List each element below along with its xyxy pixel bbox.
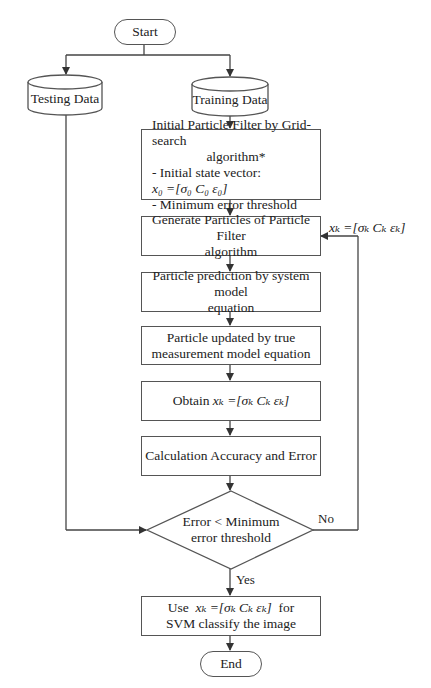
feedback-state-label: xₖ =[σₖ Cₖ εₖ] <box>329 219 405 236</box>
start-terminal: Start <box>114 19 176 45</box>
no-label: No <box>318 511 334 527</box>
obtained-state-vector: xₖ =[σₖ Cₖ εₖ] <box>213 393 289 409</box>
start-label: Start <box>132 24 158 40</box>
yes-label: Yes <box>236 572 255 588</box>
init-line4: - Minimum error threshold <box>152 197 297 213</box>
particle-prediction-box: Particle prediction by system model equa… <box>141 272 321 312</box>
svm-line1: Use xₖ =[σₖ Cₖ εₖ] for <box>168 600 295 616</box>
generate-particles-box: Generate Particles of Particle Filter al… <box>141 216 321 256</box>
init-particle-filter-box: Initial Particle Filter by Grid-search a… <box>141 129 321 200</box>
end-terminal: End <box>200 651 262 677</box>
decision-label: Error < Minimum error threshold <box>170 514 292 546</box>
testing-data-label: Testing Data <box>28 91 102 107</box>
end-label: End <box>220 656 242 672</box>
calculation-accuracy-box: Calculation Accuracy and Error <box>141 436 321 476</box>
initial-state-vector: x₀ =[σ₀ C₀ ε₀] <box>152 181 228 196</box>
obtain-state-box: Obtain xₖ =[σₖ Cₖ εₖ] <box>141 381 321 421</box>
particle-update-box: Particle updated by true measurement mod… <box>141 326 321 365</box>
svm-classify-box: Use xₖ =[σₖ Cₖ εₖ] for SVM classify the … <box>141 596 321 636</box>
init-line3: - Initial state vector: x₀ =[σ₀ C₀ ε₀] <box>152 165 320 197</box>
training-data-label: Training Data <box>192 92 268 108</box>
init-line1: Initial Particle Filter by Grid-search <box>152 117 320 149</box>
init-line2: algorithm* <box>206 149 265 165</box>
